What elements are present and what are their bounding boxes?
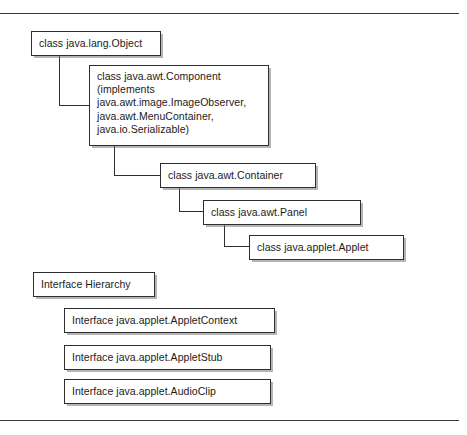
- interface-node-appletcontext[interactable]: Interface java.applet.AppletContext: [64, 308, 275, 333]
- class-node-container[interactable]: class java.awt.Container: [160, 163, 316, 188]
- class-node-object-label: class java.lang.Object: [32, 37, 160, 50]
- top-divider-rule: [0, 13, 459, 14]
- class-node-container-label: class java.awt.Container: [161, 169, 315, 182]
- bottom-divider-rule: [0, 420, 459, 421]
- connector-container-to-panel: [179, 187, 204, 212]
- class-node-panel-label: class java.awt.Panel: [204, 206, 360, 219]
- interface-node-appletstub[interactable]: Interface java.applet.AppletStub: [64, 345, 271, 370]
- interface-node-appletcontext-label: Interface java.applet.AppletContext: [65, 314, 274, 327]
- figure-canvas: class java.lang.Object class java.awt.Co…: [0, 0, 467, 435]
- interface-node-audioclip-label: Interface java.applet.AudioClip: [65, 385, 270, 398]
- class-node-panel[interactable]: class java.awt.Panel: [203, 200, 361, 225]
- class-node-component-label: class java.awt.Component (implements jav…: [90, 70, 268, 136]
- interface-node-audioclip[interactable]: Interface java.applet.AudioClip: [64, 379, 271, 404]
- interface-node-appletstub-label: Interface java.applet.AppletStub: [65, 351, 270, 364]
- interface-hierarchy-heading-label: Interface Hierarchy: [34, 278, 154, 291]
- connector-object-to-component: [59, 55, 91, 106]
- interface-hierarchy-heading-box[interactable]: Interface Hierarchy: [33, 272, 155, 297]
- class-node-object[interactable]: class java.lang.Object: [31, 31, 161, 56]
- connector-panel-to-applet: [224, 224, 250, 247]
- class-node-applet[interactable]: class java.applet.Applet: [249, 235, 404, 260]
- class-node-component[interactable]: class java.awt.Component (implements jav…: [89, 65, 269, 146]
- connector-component-to-container: [114, 145, 161, 176]
- class-node-applet-label: class java.applet.Applet: [250, 241, 403, 254]
